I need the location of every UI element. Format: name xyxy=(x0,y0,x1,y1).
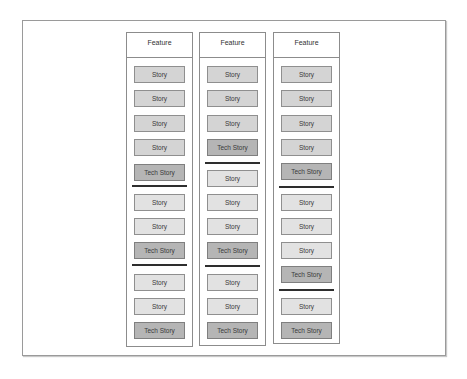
feature-header: Feature xyxy=(200,33,265,58)
story-card: Story xyxy=(281,298,332,315)
story-card: Story xyxy=(281,218,332,235)
story-card: Story xyxy=(281,242,332,259)
release-separator xyxy=(205,265,260,267)
story-card: Story xyxy=(134,218,185,235)
feature-column: FeatureStoryStoryStoryStoryTech StorySto… xyxy=(273,32,340,344)
tech-story-card: Tech Story xyxy=(207,322,258,339)
story-card: Story xyxy=(207,90,258,107)
tech-story-card: Tech Story xyxy=(281,163,332,180)
release-separator xyxy=(279,186,334,188)
feature-column: FeatureStoryStoryStoryTech StoryStorySto… xyxy=(199,32,266,346)
feature-header: Feature xyxy=(127,33,192,58)
story-card: Story xyxy=(134,139,185,156)
release-separator xyxy=(132,185,187,187)
story-card: Story xyxy=(281,139,332,156)
release-separator xyxy=(279,289,334,291)
story-card: Story xyxy=(134,90,185,107)
story-card: Story xyxy=(134,115,185,132)
feature-header: Feature xyxy=(274,33,339,58)
story-card: Story xyxy=(207,274,258,291)
tech-story-card: Tech Story xyxy=(281,266,332,283)
tech-story-card: Tech Story xyxy=(134,242,185,259)
story-card: Story xyxy=(281,90,332,107)
story-card: Story xyxy=(281,194,332,211)
tech-story-card: Tech Story xyxy=(281,322,332,339)
story-card: Story xyxy=(207,170,258,187)
story-card: Story xyxy=(207,218,258,235)
tech-story-card: Tech Story xyxy=(134,322,185,339)
story-card: Story xyxy=(134,274,185,291)
tech-story-card: Tech Story xyxy=(134,164,185,181)
feature-column: FeatureStoryStoryStoryStoryTech StorySto… xyxy=(126,32,193,347)
story-card: Story xyxy=(207,194,258,211)
story-card: Story xyxy=(281,115,332,132)
story-card: Story xyxy=(134,66,185,83)
release-separator xyxy=(132,264,187,266)
story-card: Story xyxy=(207,298,258,315)
story-card: Story xyxy=(134,298,185,315)
tech-story-card: Tech Story xyxy=(207,242,258,259)
release-separator xyxy=(205,162,260,164)
story-card: Story xyxy=(281,66,332,83)
story-card: Story xyxy=(207,66,258,83)
story-card: Story xyxy=(207,115,258,132)
story-card: Story xyxy=(134,194,185,211)
tech-story-card: Tech Story xyxy=(207,139,258,156)
